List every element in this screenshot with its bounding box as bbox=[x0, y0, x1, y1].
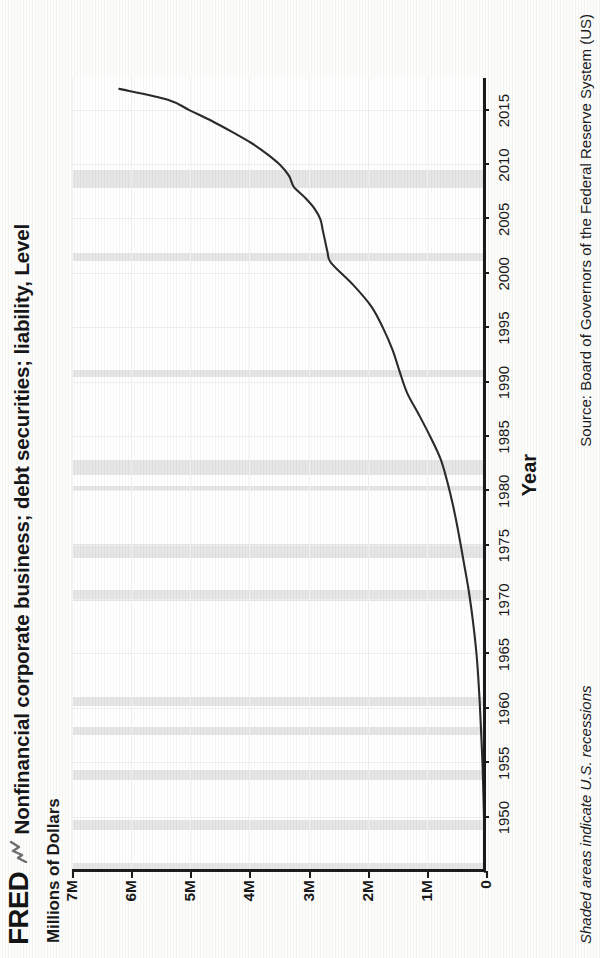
fred-chart-page: FRED Nonfinancial corporate business; de… bbox=[0, 0, 600, 958]
y-tick bbox=[249, 871, 251, 878]
x-tick-label: 1990 bbox=[495, 366, 512, 399]
y-tick bbox=[309, 871, 311, 878]
data-series-line bbox=[72, 78, 486, 872]
x-tick-label: 1980 bbox=[495, 475, 512, 508]
x-tick-label: 1970 bbox=[495, 583, 512, 616]
x-tick-label: 2005 bbox=[495, 203, 512, 236]
x-tick bbox=[483, 598, 489, 600]
x-tick bbox=[483, 544, 489, 546]
x-axis-title: Year bbox=[518, 78, 541, 872]
y-tick bbox=[72, 871, 74, 878]
x-tick-label: 2010 bbox=[495, 148, 512, 181]
y-tick bbox=[131, 871, 133, 878]
x-tick-label: 2015 bbox=[495, 94, 512, 127]
x-tick bbox=[483, 163, 489, 165]
x-tick bbox=[483, 435, 489, 437]
line-chart-mark-icon bbox=[9, 842, 33, 864]
x-tick-label: 1995 bbox=[495, 311, 512, 344]
x-tick bbox=[483, 326, 489, 328]
x-tick bbox=[483, 652, 489, 654]
y-axis-tick-labels: 01M2M3M4M5M6M7M bbox=[0, 880, 414, 958]
x-tick bbox=[483, 381, 489, 383]
x-tick-label: 1950 bbox=[495, 801, 512, 834]
x-tick-label: 1965 bbox=[495, 638, 512, 671]
y-tick-label: 4M bbox=[240, 880, 258, 902]
page-title: Nonfinancial corporate business; debt se… bbox=[12, 224, 34, 835]
x-tick bbox=[483, 272, 489, 274]
x-tick bbox=[483, 816, 489, 818]
y-tick bbox=[486, 871, 488, 878]
x-tick-label: 2000 bbox=[495, 257, 512, 290]
y-tick bbox=[368, 871, 370, 878]
y-tick-label: 2M bbox=[359, 880, 377, 902]
rotated-figure: FRED Nonfinancial corporate business; de… bbox=[0, 0, 600, 958]
recession-note: Shaded areas indicate U.S. recessions bbox=[577, 686, 594, 944]
x-tick bbox=[483, 489, 489, 491]
series-path bbox=[119, 89, 485, 872]
y-tick-label: 7M bbox=[63, 880, 81, 902]
plot-area bbox=[72, 78, 486, 872]
y-tick-label: 6M bbox=[122, 880, 140, 902]
x-tick-label: 1975 bbox=[495, 529, 512, 562]
x-axis-line bbox=[483, 78, 486, 872]
x-tick-label: 1960 bbox=[495, 692, 512, 725]
x-tick bbox=[483, 761, 489, 763]
x-tick-label: 1955 bbox=[495, 747, 512, 780]
x-tick bbox=[483, 217, 489, 219]
y-axis-line bbox=[72, 869, 486, 872]
x-tick bbox=[483, 707, 489, 709]
x-tick-label: 1985 bbox=[495, 420, 512, 453]
fred-header: FRED Nonfinancial corporate business; de… bbox=[6, 224, 33, 944]
y-tick-label: 0 bbox=[477, 880, 495, 889]
x-tick bbox=[483, 109, 489, 111]
y-tick-label: 3M bbox=[300, 880, 318, 902]
y-tick bbox=[190, 871, 192, 878]
y-tick-label: 5M bbox=[181, 880, 199, 902]
source-note: Source: Board of Governors of the Federa… bbox=[577, 14, 594, 447]
y-tick bbox=[427, 871, 429, 878]
y-tick-label: 1M bbox=[418, 880, 436, 902]
